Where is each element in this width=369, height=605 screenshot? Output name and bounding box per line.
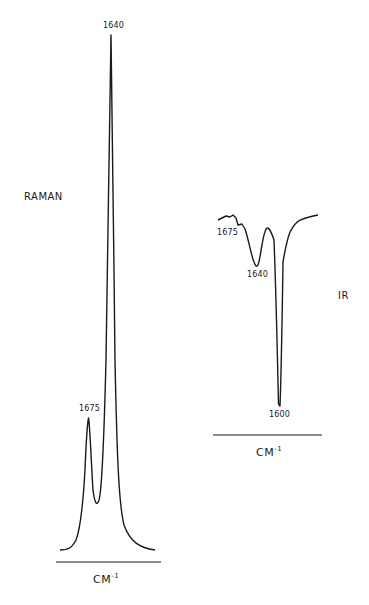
ir-title: IR: [338, 290, 349, 301]
ir-axis-label: CM-1: [256, 445, 282, 459]
raman-axis-exponent: -1: [111, 572, 119, 580]
ir-axis-exponent: -1: [274, 445, 282, 453]
ir-peak-label-1675: 1675: [217, 228, 238, 237]
raman-axis-unit: CM: [93, 573, 111, 586]
ir-spectrum-curve: [218, 215, 318, 406]
ir-peak-label-1600: 1600: [269, 410, 290, 419]
raman-axis-label: CM-1: [93, 572, 119, 586]
raman-title: RAMAN: [24, 191, 63, 202]
raman-peak-label-1675: 1675: [79, 404, 100, 413]
ir-axis-unit: CM: [256, 446, 274, 459]
raman-peak-label-1640: 1640: [103, 21, 124, 30]
raman-spectrum-curve: [60, 35, 155, 550]
spectra-canvas: [0, 0, 369, 605]
ir-peak-label-1640: 1640: [247, 270, 268, 279]
